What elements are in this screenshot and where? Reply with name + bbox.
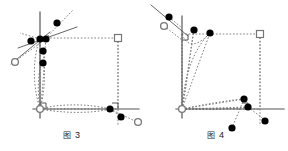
data-dot — [42, 35, 49, 42]
data-dot — [165, 13, 172, 20]
data-dot — [244, 103, 251, 110]
dotted-rectangle-3 — [40, 38, 118, 126]
dotted-rectangle-4 — [182, 34, 260, 126]
right-angle-marks-3 — [40, 103, 118, 109]
figure-sheet: 图3 — [0, 0, 288, 151]
data-dot — [27, 37, 34, 44]
open-circle-marker-4 — [161, 23, 168, 30]
square-marker-4 — [257, 31, 264, 38]
dotted-fan-4 — [182, 30, 248, 109]
right-angle-marks-4 — [182, 34, 248, 109]
figure-number: 4 — [219, 129, 225, 141]
figure-panel-4: 图4 — [144, 0, 288, 151]
data-dots-3 — [27, 19, 124, 120]
figure-panel-3: 图3 — [0, 0, 144, 151]
data-dot — [53, 19, 60, 26]
figure-3-caption: 图3 — [0, 129, 144, 142]
data-dots-4 — [165, 13, 268, 131]
data-dot — [39, 59, 46, 66]
data-dot — [39, 47, 46, 54]
dotted-curves-4 — [182, 30, 248, 109]
data-dot — [117, 113, 124, 120]
figure-3-drawing — [0, 0, 144, 132]
origin-marker-4 — [179, 106, 186, 113]
data-dot — [106, 105, 113, 112]
square-marker-3 — [115, 35, 122, 42]
origin-marker-3 — [37, 106, 44, 113]
data-dot — [206, 29, 213, 36]
figure-4-caption: 图4 — [144, 129, 288, 142]
figure-4-drawing — [144, 0, 288, 132]
data-dot — [240, 95, 247, 102]
figure-label-mark: 图 — [63, 130, 72, 142]
data-dot — [261, 117, 268, 124]
figure-label-mark: 图 — [207, 130, 216, 142]
axes-3 — [33, 12, 139, 118]
dotted-rays-3 — [14, 10, 137, 122]
solid-lines-3 — [11, 27, 77, 64]
figure-number: 3 — [75, 129, 81, 141]
data-dot — [190, 26, 197, 33]
